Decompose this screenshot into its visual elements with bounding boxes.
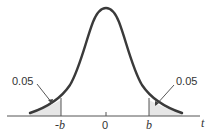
tick-b: b xyxy=(146,118,152,132)
tick-zero: 0 xyxy=(102,119,108,131)
left-area-label: 0.05 xyxy=(12,75,33,87)
density-curve xyxy=(30,8,182,113)
left-tail-shade xyxy=(30,100,61,116)
t-distribution-chart: 0.05 0.05 -b 0 b t xyxy=(0,0,213,140)
axis-variable-t: t xyxy=(201,116,205,130)
right-area-label: 0.05 xyxy=(176,75,197,87)
tick-neg-b: -b xyxy=(55,118,65,132)
right-tail-shade xyxy=(149,100,182,116)
right-arrow xyxy=(156,85,174,105)
